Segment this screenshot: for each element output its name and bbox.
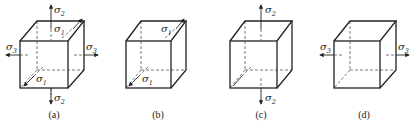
label-sigma2-bottom-a: σ2 bbox=[54, 92, 65, 106]
panel-d: σ3 σ3 (d) bbox=[320, 21, 409, 121]
sigma1-bottom-arrow-a bbox=[24, 76, 34, 86]
caption-a: (a) bbox=[48, 109, 59, 121]
caption-d: (d) bbox=[358, 109, 370, 121]
diagonal-mark-c bbox=[233, 76, 242, 86]
panel-c: σ2 σ2 (c) bbox=[230, 4, 292, 121]
label-sigma1-top-b: σ1 bbox=[161, 23, 172, 37]
label-sigma1-top-a: σ1 bbox=[54, 23, 65, 37]
cube-d bbox=[334, 21, 396, 88]
stress-cubes-diagram: σ2 σ2 σ1 σ1 σ3 σ3 (a) σ1 bbox=[0, 0, 411, 127]
label-sigma1-bottom-b: σ1 bbox=[142, 73, 153, 87]
label-sigma2-top-c: σ2 bbox=[265, 4, 276, 18]
label-sigma3-right-a: σ3 bbox=[86, 41, 97, 55]
sigma1-bottom-arrow-b bbox=[129, 76, 139, 86]
label-sigma3-right-d: σ3 bbox=[398, 41, 409, 55]
panel-a: σ2 σ2 σ1 σ1 σ3 σ3 (a) bbox=[6, 4, 98, 121]
caption-b: (b) bbox=[152, 109, 164, 121]
label-sigma2-bottom-c: σ2 bbox=[265, 92, 276, 106]
label-sigma3-left-a: σ3 bbox=[6, 41, 17, 55]
cube-a bbox=[20, 21, 84, 88]
label-sigma3-left-d: σ3 bbox=[320, 41, 331, 55]
cube-b bbox=[126, 21, 186, 88]
panel-b: σ1 σ1 (b) bbox=[126, 19, 186, 121]
caption-c: (c) bbox=[255, 109, 266, 121]
label-sigma2-top-a: σ2 bbox=[54, 4, 65, 18]
label-sigma1-bottom-a: σ1 bbox=[36, 73, 47, 87]
